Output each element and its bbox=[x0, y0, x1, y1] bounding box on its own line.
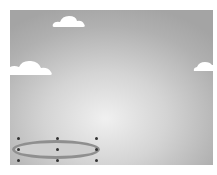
resize-handle-bottom-right[interactable] bbox=[95, 159, 98, 162]
slide-canvas[interactable] bbox=[10, 10, 213, 165]
center-handle[interactable] bbox=[56, 148, 59, 151]
cloud-left[interactable] bbox=[10, 59, 53, 76]
resize-handle-top-right[interactable] bbox=[95, 137, 98, 140]
resize-handle-middle-right[interactable] bbox=[95, 148, 98, 151]
cloud-right[interactable] bbox=[193, 60, 213, 72]
cloud-top[interactable] bbox=[52, 14, 86, 28]
resize-handle-top-left[interactable] bbox=[17, 137, 20, 140]
resize-handle-top-center[interactable] bbox=[56, 137, 59, 140]
resize-handle-bottom-left[interactable] bbox=[17, 159, 20, 162]
resize-handle-middle-left[interactable] bbox=[17, 148, 20, 151]
resize-handle-bottom-center[interactable] bbox=[56, 159, 59, 162]
